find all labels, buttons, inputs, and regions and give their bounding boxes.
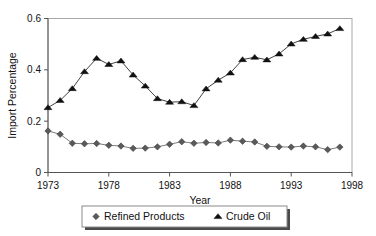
data-point-diamond (288, 144, 294, 150)
line-chart: 00.20.40.6197319781983198819931998YearIm… (0, 0, 376, 236)
y-tick-label: 0.6 (27, 13, 41, 24)
chart-figure: 00.20.40.6197319781983198819931998YearIm… (0, 0, 376, 236)
data-point-triangle (117, 58, 125, 63)
data-point-triangle (105, 62, 113, 67)
data-point-triangle (178, 99, 186, 104)
data-point-diamond (337, 144, 343, 150)
data-point-triangle (324, 31, 332, 36)
data-point-diamond (276, 144, 282, 150)
data-point-triangle (80, 69, 88, 74)
data-point-diamond (203, 139, 209, 145)
data-point-diamond (312, 144, 318, 150)
data-point-triangle (68, 86, 76, 91)
x-tick-label: 1973 (37, 180, 60, 191)
data-point-diamond (106, 142, 112, 148)
x-axis-title: Year (189, 194, 211, 206)
data-point-triangle (226, 70, 234, 75)
data-point-diamond (252, 139, 258, 145)
data-point-diamond (239, 138, 245, 144)
data-point-diamond (118, 143, 124, 149)
data-point-diamond (300, 143, 306, 149)
data-point-triangle (336, 26, 344, 31)
data-point-diamond (45, 128, 51, 134)
data-point-diamond (81, 141, 87, 147)
y-tick-label: 0.2 (27, 116, 41, 127)
data-point-diamond (69, 140, 75, 146)
x-tick-label: 1978 (98, 180, 121, 191)
data-point-diamond (130, 145, 136, 151)
data-point-diamond (227, 137, 233, 143)
x-tick-label: 1998 (341, 180, 364, 191)
data-point-triangle (251, 54, 259, 59)
y-tick-label: 0 (35, 167, 41, 178)
data-point-triangle (93, 55, 101, 60)
data-point-diamond (264, 143, 270, 149)
data-point-diamond (142, 145, 148, 151)
x-tick-label: 1988 (219, 180, 242, 191)
data-point-triangle (153, 96, 161, 101)
data-point-diamond (191, 140, 197, 146)
data-point-diamond (179, 139, 185, 145)
data-point-diamond (57, 131, 63, 137)
x-tick-label: 1983 (158, 180, 181, 191)
data-point-triangle (129, 72, 137, 77)
y-axis-title: Import Percentage (6, 52, 18, 139)
data-point-triangle (190, 103, 198, 108)
x-tick-label: 1993 (280, 180, 303, 191)
data-point-diamond (166, 141, 172, 147)
legend-label-1: Refined Products (104, 210, 185, 222)
series-line-crude-oil (48, 29, 340, 108)
legend-label-2: Crude Oil (226, 210, 270, 222)
data-point-diamond (93, 140, 99, 146)
data-point-diamond (324, 146, 330, 152)
data-point-diamond (215, 140, 221, 146)
data-point-triangle (56, 98, 64, 103)
data-point-diamond (154, 144, 160, 150)
data-point-triangle (287, 41, 295, 46)
y-tick-label: 0.4 (27, 64, 41, 75)
